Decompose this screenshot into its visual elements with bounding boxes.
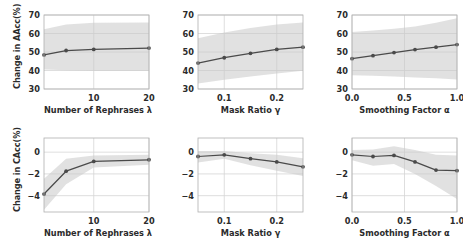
data-point-marker [371,54,375,58]
y-tick-label: −2 [27,169,40,179]
data-point-marker [92,159,96,163]
x-tick-label: 0.1 [217,216,232,226]
x-axis-label-top-right: Smoothing Factor α [352,105,457,115]
y-axis-label-bottom-left: Change in CAcc(%) [12,138,22,212]
x-tick-label: 20 [143,93,155,103]
plot-background [198,138,303,212]
chart-panel-bottom-center: 0−2−40.10.2 [172,134,309,240]
y-tick-label: 50 [337,47,349,57]
data-point-marker [64,49,68,53]
plot-area-bottom-left: 0−2−41020 [18,134,155,240]
chart-panel-bottom-left: 0−2−41020 [18,134,155,240]
y-tick-label: 70 [337,11,349,20]
data-point-marker [275,48,279,52]
y-tick-label: 60 [337,29,349,39]
y-axis-label-top-left: Change in AAcc(%) [12,15,22,89]
x-axis-label-bottom-right: Smoothing Factor α [352,228,457,238]
data-point-marker [249,51,253,55]
y-tick-label: 50 [29,47,41,57]
y-tick-label: −4 [335,191,348,201]
x-tick-label: 1.0 [450,93,463,103]
y-tick-label: 70 [183,11,195,20]
y-tick-label: 0 [34,147,40,157]
x-axis-label-bottom-center: Mask Ratio γ [198,228,303,238]
chart-panel-top-center: 30405060700.10.2 [172,11,309,117]
x-tick-label: 0.5 [397,93,412,103]
data-point-marker [413,160,417,164]
y-tick-label: −2 [335,169,348,179]
plot-area-top-left: 30405060701020 [18,11,155,117]
data-point-marker [64,169,68,173]
x-tick-label: 10 [88,216,100,226]
data-point-marker [371,155,375,159]
y-tick-label: −2 [181,169,194,179]
x-tick-label: 1.0 [450,216,463,226]
data-point-marker [249,157,253,161]
chart-panel-top-right: 30405060700.00.51.0 [326,11,463,117]
plot-area-bottom-center: 0−2−40.10.2 [172,134,309,240]
confidence-band [44,22,149,70]
y-tick-label: 0 [188,147,194,157]
data-point-marker [222,56,226,60]
x-tick-label: 0.0 [345,93,360,103]
x-axis-label-top-center: Mask Ratio γ [198,105,303,115]
data-point-marker [275,160,279,164]
data-point-marker [392,154,396,158]
plot-area-top-center: 30405060700.10.2 [172,11,309,117]
y-tick-label: 30 [183,84,195,94]
x-tick-label: 20 [143,216,155,226]
x-tick-label: 0.1 [217,93,232,103]
figure-canvas: 30405060701020Number of Rephrases λChang… [0,0,471,246]
data-point-marker [92,48,96,52]
data-point-marker [434,168,438,172]
y-tick-label: −4 [27,191,40,201]
y-tick-label: 70 [29,11,41,20]
y-tick-label: 30 [29,84,41,94]
y-tick-label: 60 [29,29,41,39]
y-tick-label: 0 [342,147,348,157]
y-tick-label: 50 [183,47,195,57]
y-tick-label: 60 [183,29,195,39]
x-tick-label: 10 [88,93,100,103]
chart-panel-top-left: 30405060701020 [18,11,155,117]
x-tick-label: 0.2 [269,216,284,226]
y-tick-label: 40 [183,66,195,76]
y-tick-label: −4 [181,191,194,201]
plot-area-top-right: 30405060700.00.51.0 [326,11,463,117]
x-tick-label: 0.5 [397,216,412,226]
x-axis-label-bottom-left: Number of Rephrases λ [44,228,149,238]
x-axis-label-top-left: Number of Rephrases λ [44,105,149,115]
data-point-marker [222,153,226,157]
plot-area-bottom-right: 0−2−40.00.51.0 [326,134,463,240]
x-tick-label: 0.2 [269,93,284,103]
data-point-marker [434,45,438,49]
chart-panel-bottom-right: 0−2−40.00.51.0 [326,134,463,240]
data-point-marker [392,51,396,55]
data-point-marker [413,48,417,52]
x-tick-label: 0.0 [345,216,360,226]
y-tick-label: 40 [337,66,349,76]
y-tick-label: 40 [29,66,41,76]
